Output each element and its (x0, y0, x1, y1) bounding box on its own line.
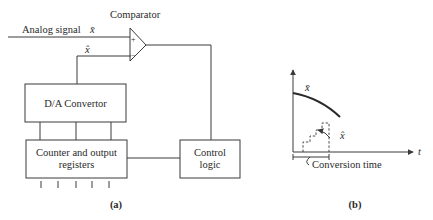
block-diagram-a: Comparator Analog signal x̄ + − x̂ D/A C… (8, 9, 240, 211)
conversion-time-label: Conversion time (312, 159, 382, 170)
control-label-line2: logic (200, 159, 221, 170)
timing-graph-b: t x̄ x̂ Conversion time (b) (293, 70, 422, 211)
plus-sign: + (131, 35, 136, 44)
conversion-time-leader (307, 157, 310, 165)
adc-diagram: Comparator Analog signal x̄ + − x̂ D/A C… (0, 0, 433, 220)
t-axis-label: t (418, 146, 422, 157)
da-convertor-label: D/A Convertor (44, 98, 107, 109)
output-bit-ticks (41, 181, 109, 188)
feedback-symbol-x-hat: x̂ (84, 44, 90, 55)
comparator-output-line (146, 45, 211, 140)
counter-label-line2: registers (59, 159, 95, 170)
analog-signal-curve (293, 93, 340, 117)
x-hat-pointer-arrow (318, 130, 330, 138)
staircase-approximation (303, 123, 329, 152)
comparator-label: Comparator (110, 9, 161, 20)
analog-signal-label: Analog signal (22, 24, 81, 35)
caption-a: (a) (110, 199, 123, 211)
approx-symbol-x-hat: x̂ (339, 130, 345, 141)
control-label-line1: Control (194, 147, 226, 158)
input-symbol-x-bar: x̄ (89, 24, 95, 35)
feedback-line (77, 56, 131, 84)
counter-label-line1: Counter and output (36, 147, 117, 158)
signal-symbol-x-bar: x̄ (304, 82, 310, 93)
caption-b: (b) (349, 199, 362, 211)
minus-sign: − (131, 51, 136, 60)
